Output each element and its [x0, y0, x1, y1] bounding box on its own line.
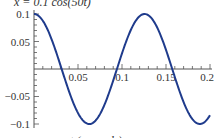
- x-axis-label: t (seconds): [70, 134, 122, 138]
- chart: x = 0.1 cos(50t) 0.1 0.05 −0.05 −0.1 0.0…: [0, 0, 216, 138]
- x-tick-label: 0.1: [115, 71, 129, 83]
- y-tick-label: −0.1: [10, 118, 30, 130]
- y-tick-label: 0.1: [16, 8, 30, 20]
- y-tick-label: 0.05: [11, 36, 31, 48]
- y-tick-label: −0.05: [5, 90, 31, 102]
- x-tick-label: 0.2: [200, 71, 214, 83]
- x-tick-label: 0.05: [68, 71, 88, 83]
